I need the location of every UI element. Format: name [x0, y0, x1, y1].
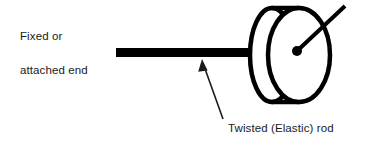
rod-pointer-arrow-line	[204, 66, 223, 119]
torsional-pendulum-figure: Fixed or attached end Twisted (Elastic) …	[0, 0, 369, 145]
fixed-end-label-line1: Fixed or	[20, 30, 62, 43]
rod-pointer-arrow-head	[198, 59, 207, 72]
disc-center-hub	[292, 46, 302, 56]
rod-bar	[116, 48, 253, 57]
fixed-end-label-line2: attached end	[20, 64, 88, 77]
twisted-rod-label: Twisted (Elastic) rod	[228, 122, 334, 135]
